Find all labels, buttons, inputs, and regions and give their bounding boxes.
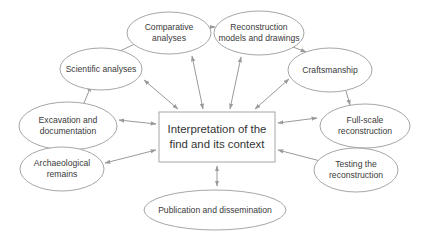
node-craftsmanship-shape (288, 48, 372, 92)
arrow-center-fullscale (278, 118, 317, 123)
arrow-center-archaeological (105, 150, 156, 163)
node-excavation-shape (19, 102, 117, 150)
arrow-center-comparative (192, 56, 203, 109)
arrow-center-reconstruction (230, 57, 241, 109)
arrow-center-scientific (144, 80, 178, 109)
center-interpretation-label: Interpretation of the find and its conte… (159, 112, 275, 162)
node-testing-shape (314, 148, 398, 192)
node-publication-shape (144, 190, 286, 230)
node-full-scale-shape (320, 104, 410, 148)
arrow-center-craftsmanship (255, 79, 289, 109)
arrow-center-excavation (119, 120, 156, 124)
node-reconstruction-models-shape (214, 11, 304, 55)
node-archaeological-shape (20, 147, 104, 191)
arrow-reconstruction-to-craftsmanship (293, 47, 306, 52)
diagram-canvas: Comparative analyses Reconstruction mode… (0, 0, 437, 241)
node-comparative-shape (127, 12, 211, 54)
node-scientific-shape (60, 48, 142, 90)
arrow-craftsmanship-to-fullscale (346, 91, 350, 105)
